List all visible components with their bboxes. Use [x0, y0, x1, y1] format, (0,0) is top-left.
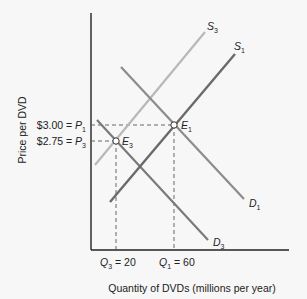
- q3-label: Q3 = 20: [100, 256, 136, 270]
- e3-label: E3: [122, 135, 133, 149]
- d3-label: D3: [213, 236, 225, 250]
- p3-label: $2.75 = P3: [37, 135, 86, 149]
- e1-label: E1: [181, 119, 192, 133]
- s3-label: S3: [207, 20, 218, 34]
- x-axis-title: Quantity of DVDs (millions per year): [108, 282, 275, 294]
- q1-label: Q1 = 60: [159, 256, 195, 270]
- d1-label: D1: [249, 197, 261, 211]
- d1-curve: [121, 67, 244, 199]
- s1-label: S1: [234, 40, 245, 54]
- e1-point: [171, 122, 177, 128]
- p1-label: $3.00 = P1: [37, 119, 86, 133]
- y-axis-title: Price per DVD: [16, 96, 28, 164]
- supply-demand-diagram: S3 S1 D1 D3 E1 E3 $3.00 = P1 $2.75 = P3 …: [0, 0, 307, 299]
- e3-point: [113, 138, 119, 144]
- d3-curve: [97, 120, 208, 240]
